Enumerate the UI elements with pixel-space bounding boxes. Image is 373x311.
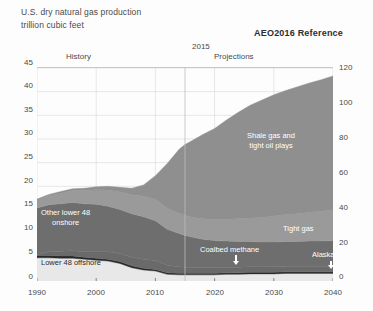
y-tick-left: 25 [7,152,33,161]
y-tick-left: 0 [7,272,33,281]
split-year-annotation: 2015 [192,42,210,51]
chart-title-block: U.S. dry natural gas production trillion… [21,6,141,32]
y-tick-right: 60 [339,168,367,177]
y-tick-right: 40 [339,203,367,212]
x-tick: 1990 [15,288,59,297]
y-tick-right: 0 [339,272,367,281]
chart-figure: U.S. dry natural gas production trillion… [0,0,373,311]
y-tick-left: 40 [7,81,33,90]
x-tick: 2030 [252,288,296,297]
plot-area [37,67,333,280]
y-tick-left: 45 [7,58,33,67]
y-tick-left: 35 [7,105,33,114]
y-tick-left: 5 [7,247,33,256]
y-tick-left: 10 [7,223,33,232]
y-tick-right: 20 [339,238,367,247]
scenario-label: AEO2016 Reference [254,28,343,38]
y-tick-right: 80 [339,133,367,142]
history-annotation: History [66,52,91,61]
y-tick-right: 120 [339,63,367,72]
arrow-head [328,265,334,269]
page-title: U.S. dry natural gas production [21,6,141,19]
y-tick-left: 20 [7,176,33,185]
arrow-head [233,261,239,265]
x-tick: 2000 [74,288,118,297]
x-tick: 2020 [193,288,237,297]
y-tick-right: 100 [339,98,367,107]
x-tick: 2040 [311,288,355,297]
y-tick-left: 15 [7,199,33,208]
projections-annotation: Projections [214,52,254,61]
y-tick-left: 30 [7,128,33,137]
chart-units-label: trillion cubic feet [21,19,141,32]
area-chart-svg [37,68,333,281]
x-tick: 2010 [133,288,177,297]
